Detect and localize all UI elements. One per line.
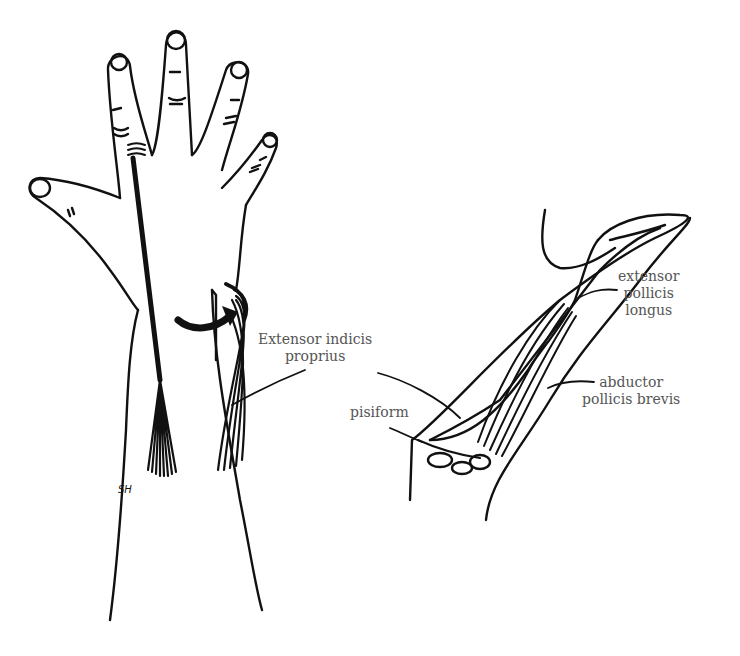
label-line-1: extensor (618, 268, 679, 285)
leader-lines (232, 289, 617, 442)
hand-dorsal-view (30, 31, 277, 620)
label-line-2: pollicis (618, 285, 679, 302)
label-pisiform: pisiform (350, 404, 409, 421)
label-line-1: Extensor indicis (258, 331, 372, 348)
label-line-2: pollicis brevis (582, 391, 680, 408)
label-extensor-indicis-proprius: Extensor indicis proprius (258, 331, 372, 365)
artist-signature: SH (118, 484, 132, 495)
thumb-side-view (410, 210, 690, 520)
rotation-arrow (178, 316, 230, 328)
label-extensor-pollicis-longus: extensor pollicis longus (618, 268, 679, 319)
label-line-2: proprius (258, 348, 372, 365)
illustration (0, 0, 740, 656)
label-abductor-pollicis-brevis: abductor pollicis brevis (582, 374, 680, 408)
label-line-1: abductor (582, 374, 680, 391)
label-line-3: longus (618, 302, 679, 319)
